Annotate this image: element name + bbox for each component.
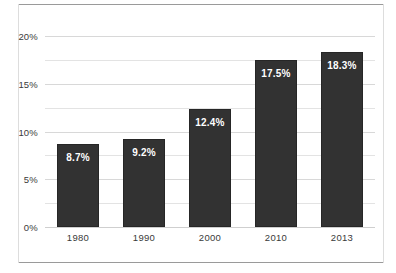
y-tick-label: 10% — [0, 126, 38, 137]
bar-value-label: 9.2% — [124, 147, 164, 158]
y-tick-label: 0% — [0, 222, 38, 233]
bar: 17.5% — [255, 60, 297, 227]
y-tick-label: 5% — [0, 174, 38, 185]
bar-slot: 17.5% — [243, 36, 309, 227]
bar-slot: 8.7% — [45, 36, 111, 227]
bar-value-label: 17.5% — [256, 68, 296, 79]
y-tick-label: 15% — [0, 78, 38, 89]
bar: 8.7% — [57, 144, 99, 227]
bar: 18.3% — [321, 52, 363, 227]
bar-value-label: 18.3% — [322, 60, 362, 71]
bar-slot: 9.2% — [111, 36, 177, 227]
bar-value-label: 8.7% — [58, 152, 98, 163]
x-tick-label: 1980 — [45, 232, 111, 243]
bar-value-label: 12.4% — [190, 117, 230, 128]
bar: 9.2% — [123, 139, 165, 227]
bar-series: 8.7%9.2%12.4%17.5%18.3% — [45, 36, 375, 227]
bar: 12.4% — [189, 109, 231, 227]
figure-frame-bottom-rule — [18, 262, 384, 263]
bar-slot: 18.3% — [309, 36, 375, 227]
y-tick-label: 20% — [0, 31, 38, 42]
figure-frame-top-rule — [18, 4, 384, 5]
y-axis-tick-labels: 0%5%10%15%20% — [0, 36, 38, 227]
x-axis-tick-labels: 19801990200020102013 — [45, 232, 375, 250]
x-tick-label: 2010 — [243, 232, 309, 243]
x-tick-label: 2000 — [177, 232, 243, 243]
bar-chart-figure: 0%5%10%15%20% 8.7%9.2%12.4%17.5%18.3% 19… — [0, 0, 396, 273]
x-tick-label: 2013 — [309, 232, 375, 243]
axis-baseline — [45, 227, 375, 228]
bar-slot: 12.4% — [177, 36, 243, 227]
figure-frame-right-rule — [383, 4, 384, 263]
x-tick-label: 1990 — [111, 232, 177, 243]
